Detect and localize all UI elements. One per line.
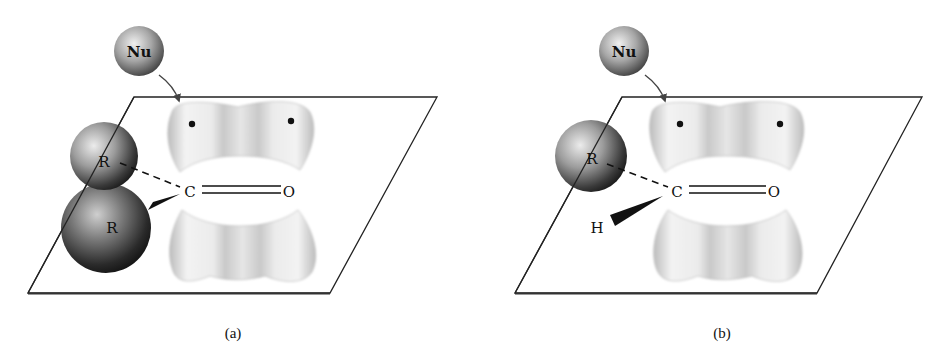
pi-orbital-top-lobe (650, 102, 804, 172)
hydrogen-label: H (590, 219, 603, 237)
lone-pair-dot (189, 121, 195, 127)
substituent-label: R (586, 150, 598, 168)
substituent-label: R (98, 153, 110, 171)
oxygen-label: O (768, 183, 780, 201)
panel-b: R H C O Nu (b) (515, 26, 922, 342)
pi-orbital-top-lobe (168, 102, 314, 172)
lone-pair-dot (288, 118, 294, 124)
panel-caption: (a) (225, 325, 242, 342)
panel-a: R R C O Nu (a) (28, 26, 437, 342)
nucleophile-label: Nu (612, 43, 637, 61)
carbon-label: C (671, 183, 682, 201)
plane-edge (515, 97, 622, 293)
figure-canvas: R R C O Nu (a) R H C O Nu (b) (0, 0, 947, 364)
lone-pair-dot (677, 121, 683, 127)
substituent-label: R (106, 219, 118, 237)
wedge-bond (148, 194, 180, 210)
carbon-label: C (184, 183, 195, 201)
lone-pair-dot (777, 121, 783, 127)
oxygen-label: O (283, 183, 295, 201)
wedge-bond (610, 196, 663, 226)
nucleophile-label: Nu (127, 43, 152, 61)
pi-orbital-bottom-lobe (654, 210, 802, 282)
pi-orbital-bottom-lobe (170, 210, 316, 282)
panel-caption: (b) (713, 325, 731, 342)
